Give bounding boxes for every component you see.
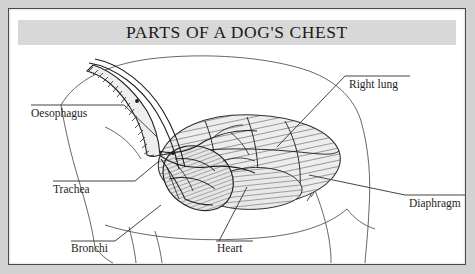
label-bronchi: Bronchi xyxy=(71,242,108,255)
figure-frame: PARTS OF A DOG'S CHEST xyxy=(8,8,466,265)
leader-bronchi xyxy=(71,205,161,241)
label-heart: Heart xyxy=(217,242,243,255)
trachea-tube xyxy=(87,65,160,157)
label-oesophagus: Oesophagus xyxy=(31,107,87,120)
label-diaphragm: Diaphragm xyxy=(409,197,461,210)
label-right-lung: Right lung xyxy=(349,78,398,91)
leader-trachea xyxy=(53,161,159,181)
figure-plate: PARTS OF A DOG'S CHEST xyxy=(0,0,475,274)
anatomy-illustration xyxy=(9,9,465,264)
label-trachea: Trachea xyxy=(53,183,90,196)
